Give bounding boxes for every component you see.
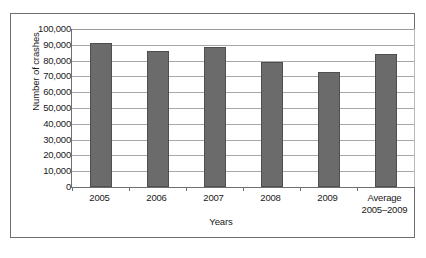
- gridline: [72, 61, 414, 62]
- y-axis-tick-label: 20,000: [21, 150, 71, 160]
- y-axis-tick-label: 40,000: [21, 119, 71, 129]
- y-axis-tick-label: 100,000: [21, 24, 71, 34]
- x-axis-tick-mark: [300, 187, 301, 191]
- bar: [204, 47, 226, 187]
- x-axis-tick-mark: [357, 187, 358, 191]
- y-axis-tick-labels: 010,00020,00030,00040,00050,00060,00070,…: [25, 29, 75, 194]
- x-axis-tick-label: 2008: [242, 192, 299, 204]
- gridline: [72, 29, 414, 30]
- x-axis-tick-mark: [186, 187, 187, 191]
- x-axis-tick-label: 2007: [185, 192, 242, 204]
- y-axis-tick-label: 10,000: [21, 166, 71, 176]
- gridline: [72, 171, 414, 172]
- y-axis-tick-label: 50,000: [21, 103, 71, 113]
- x-axis-tick-label-line: 2006: [146, 192, 166, 203]
- y-axis-tick-label: 60,000: [21, 87, 71, 97]
- y-axis-tick-label: 80,000: [21, 56, 71, 66]
- y-axis-tick-label: 70,000: [21, 71, 71, 81]
- gridline: [72, 124, 414, 125]
- gridline: [72, 45, 414, 46]
- x-axis-tick-label: Average2005–2009: [356, 192, 413, 215]
- bar: [261, 62, 283, 187]
- x-axis-tick-label-line: 2005: [89, 192, 109, 203]
- x-axis-tick-label-line: 2009: [317, 192, 337, 203]
- y-axis-tick-label: 0: [21, 182, 71, 192]
- gridline: [72, 108, 414, 109]
- x-axis-title: Years: [71, 216, 371, 227]
- y-axis-tick-label: 30,000: [21, 135, 71, 145]
- bar: [147, 51, 169, 187]
- bar: [375, 54, 397, 187]
- bar: [90, 43, 112, 187]
- gridline: [72, 155, 414, 156]
- x-axis-tick-label: 2009: [299, 192, 356, 204]
- gridline: [72, 76, 414, 77]
- gridline: [72, 92, 414, 93]
- x-axis-tick-mark: [72, 187, 73, 191]
- plot-area: [71, 29, 415, 188]
- chart-figure: Number of crashes 010,00020,00030,00040,…: [0, 0, 426, 258]
- x-axis-tick-label-line: 2008: [260, 192, 280, 203]
- x-axis-tick-mark: [243, 187, 244, 191]
- x-axis-tick-label: 2005: [71, 192, 128, 204]
- x-axis-tick-mark: [129, 187, 130, 191]
- x-axis-tick-label-line: Average: [368, 192, 402, 203]
- x-axis-tick-mark: [414, 187, 415, 191]
- x-axis-tick-label-line: 2007: [203, 192, 223, 203]
- x-axis-tick-label-line: 2005–2009: [356, 204, 413, 216]
- gridline: [72, 140, 414, 141]
- x-axis-tick-label: 2006: [128, 192, 185, 204]
- bar: [318, 72, 340, 187]
- figure-frame: Number of crashes 010,00020,00030,00040,…: [10, 13, 415, 238]
- y-axis-tick-label: 90,000: [21, 40, 71, 50]
